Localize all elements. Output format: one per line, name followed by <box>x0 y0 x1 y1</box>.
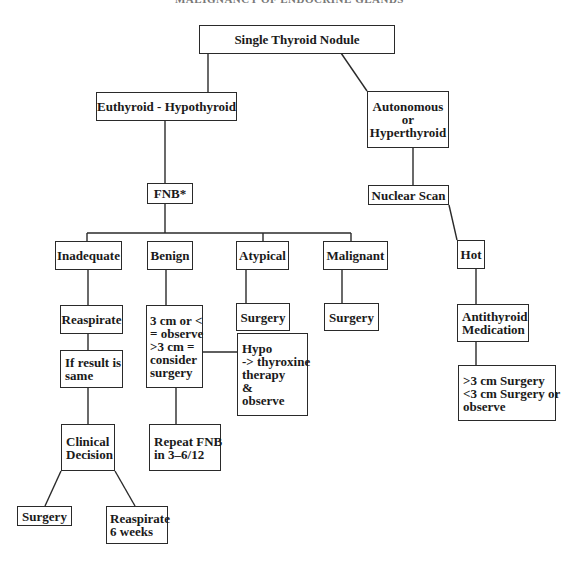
node-benign-size-criteria: 3 cm or < = observe >3 cm = consider sur… <box>146 305 203 388</box>
node-single-thyroid-nodule: Single Thyroid Nodule <box>199 25 395 54</box>
node-antithyroid-medication: Antithyroid Medication <box>457 304 529 342</box>
node-repeat-fnb: Repeat FNB in 3–6/12 <box>149 424 221 471</box>
node-malignant: Malignant <box>323 241 388 270</box>
node-reaspirate-6-weeks: Reaspirate 6 weeks <box>106 506 168 544</box>
node-atypical-surgery: Surgery <box>236 303 290 331</box>
node-nuclear-scan: Nuclear Scan <box>368 185 449 205</box>
node-malignant-surgery: Surgery <box>324 303 379 331</box>
node-autonomous-hyperthyroid: Autonomous or Hyperthyroid <box>367 91 449 148</box>
node-fnb: FNB* <box>147 183 193 204</box>
node-euthyroid-hypothyroid: Euthyroid - Hypothyroid <box>96 92 237 121</box>
node-if-result-same: If result is same <box>60 350 123 388</box>
node-hot: Hot <box>457 240 485 269</box>
node-reaspirate: Reaspirate <box>60 305 123 334</box>
node-inadequate: Inadequate <box>55 241 122 270</box>
node-atypical: Atypical <box>236 241 289 270</box>
connector-lines <box>0 0 579 567</box>
node-hot-size-criteria: >3 cm Surgery <3 cm Surgery or observe <box>458 365 556 421</box>
node-hypo-thyroxine-therapy: Hypo -> thyroxine therapy & observe <box>237 333 308 416</box>
node-clinical-decision: Clinical Decision <box>61 424 115 471</box>
node-benign: Benign <box>147 241 193 270</box>
node-final-surgery: Surgery <box>17 506 72 526</box>
